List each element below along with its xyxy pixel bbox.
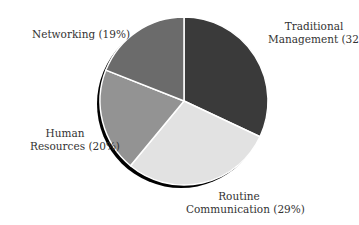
pie-chart: Traditional Management (32%) Networking … bbox=[0, 0, 359, 225]
label-routine-communication: Routine Communication (29%) bbox=[186, 190, 292, 216]
label-line: Routine bbox=[186, 190, 292, 203]
label-traditional-management: Traditional Management (32%) bbox=[268, 20, 359, 46]
label-line: Networking (19%) bbox=[32, 28, 130, 40]
label-line: Human bbox=[30, 127, 100, 140]
label-line: Management (32%) bbox=[268, 33, 359, 46]
label-human-resources: Human Resources (20%) bbox=[30, 127, 100, 153]
pie-slices bbox=[100, 17, 268, 185]
label-line: Resources (20%) bbox=[30, 140, 100, 153]
label-line: Communication (29%) bbox=[186, 203, 292, 216]
label-line: Traditional bbox=[268, 20, 359, 33]
label-networking: Networking (19%) bbox=[32, 28, 130, 41]
